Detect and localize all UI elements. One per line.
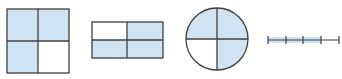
rectangle-part-top-right — [127, 22, 163, 40]
square-figure — [7, 9, 69, 73]
circle-figure — [186, 8, 248, 70]
number-line-figure — [268, 36, 339, 44]
fraction-diagrams — [0, 0, 342, 79]
square-part-bottom-left — [7, 41, 38, 73]
rectangle-part-top-left — [92, 22, 127, 40]
rectangle-part-bottom-left — [92, 40, 127, 58]
square-part-bottom-right — [38, 41, 69, 73]
rectangle-figure — [92, 22, 163, 58]
rectangle-part-bottom-right — [127, 40, 163, 58]
square-part-top-right — [38, 9, 69, 41]
square-part-top-left — [7, 9, 38, 41]
